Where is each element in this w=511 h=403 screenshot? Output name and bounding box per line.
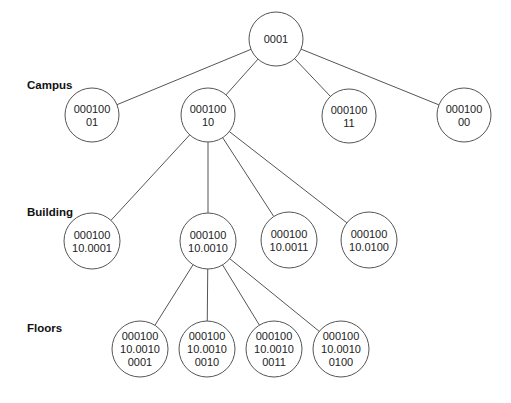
edge-building-0010-to-floor-0100	[230, 259, 320, 332]
node-floor-0010: 00010010.00100010	[179, 321, 235, 377]
node-label-line: 000100	[74, 229, 111, 241]
address-tree-diagram: 0001000100010001001000010011000100000001…	[0, 0, 511, 403]
node-label-line: 000100	[351, 228, 388, 240]
tree-nodes: 0001000100010001001000010011000100000001…	[64, 12, 491, 377]
node-label-line: 10.0010	[187, 343, 227, 355]
edge-root-to-campus-01	[117, 49, 251, 104]
node-label-line: 10.0100	[349, 241, 389, 253]
node-label-line: 10.0010	[254, 343, 294, 355]
node-building-0010: 00010010.0010	[180, 213, 236, 269]
level-label-floors: Floors	[27, 322, 62, 334]
node-building-0100: 00010010.0100	[341, 212, 397, 268]
node-label-line: 0010	[195, 356, 219, 368]
node-label-line: 0011	[262, 356, 286, 368]
node-label-line: 000100	[189, 330, 226, 342]
tree-edges	[111, 49, 439, 331]
node-label-line: 000100	[190, 103, 227, 115]
node-campus-10: 00010010	[181, 88, 235, 142]
edge-campus-10-to-building-0001	[111, 135, 190, 221]
edge-campus-10-to-building-0100	[229, 132, 347, 223]
node-floor-0100: 00010010.00100100	[313, 321, 369, 377]
node-root: 0001	[249, 12, 303, 66]
node-campus-01: 00010001	[65, 88, 119, 142]
edge-root-to-campus-00	[301, 49, 439, 105]
node-floor-0011: 00010010.00100011	[246, 321, 302, 377]
node-label-line: 0001	[264, 33, 288, 45]
node-building-0011: 00010010.0011	[261, 212, 317, 268]
level-label-building: Building	[27, 206, 73, 218]
level-label-campus: Campus	[27, 79, 72, 91]
node-floor-0001: 00010010.00100001	[112, 321, 168, 377]
node-label-line: 000100	[271, 228, 308, 240]
node-campus-11: 00010011	[322, 89, 376, 143]
node-label-line: 01	[86, 116, 98, 128]
node-label-line: 0001	[128, 356, 152, 368]
node-building-0001: 00010010.0001	[64, 213, 120, 269]
node-label-line: 10.0010	[321, 343, 361, 355]
node-label-line: 000100	[256, 330, 293, 342]
node-label-line: 000100	[74, 103, 111, 115]
node-label-line: 000100	[446, 103, 483, 115]
node-label-line: 10.0010	[188, 242, 228, 254]
node-label-line: 000100	[331, 104, 368, 116]
node-label-line: 10	[202, 116, 214, 128]
edge-building-0010-to-floor-0011	[223, 265, 260, 325]
node-label-line: 00	[458, 116, 470, 128]
node-campus-00: 00010000	[437, 88, 491, 142]
edge-building-0010-to-floor-0001	[155, 265, 193, 326]
node-label-line: 10.0010	[120, 343, 160, 355]
edge-root-to-campus-11	[295, 59, 331, 97]
edge-root-to-campus-10	[226, 59, 258, 95]
node-label-line: 000100	[190, 229, 227, 241]
node-label-line: 10.0011	[270, 241, 309, 253]
node-label-line: 000100	[323, 330, 360, 342]
node-label-line: 11	[343, 117, 354, 129]
node-label-line: 0100	[329, 356, 353, 368]
node-label-line: 10.0001	[72, 242, 112, 254]
edge-campus-10-to-building-0011	[223, 138, 274, 217]
node-label-line: 000100	[122, 330, 159, 342]
